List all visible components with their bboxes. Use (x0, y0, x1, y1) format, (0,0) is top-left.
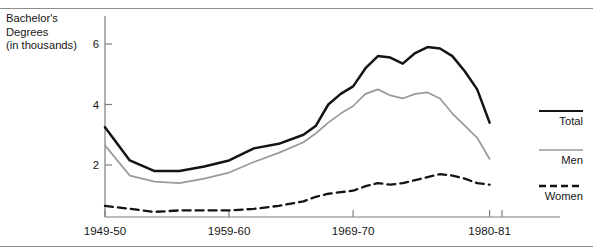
figure: Bachelor's Degrees (in thousands) 246 19… (0, 0, 593, 252)
legend-label-total: Total (559, 115, 583, 127)
chart-series-group (105, 47, 490, 212)
x-axis-tick-label: 1969-70 (332, 224, 375, 237)
y-axis-tick-label: 6 (93, 38, 99, 50)
series-line-women (105, 174, 490, 212)
x-axis-tick-label: 1980-81 (468, 224, 511, 237)
y-axis-tick-label: 2 (93, 159, 99, 171)
line-chart-plot: 246 1949-501959-601969-701980-81 TotalMe… (0, 0, 593, 252)
x-axis: 1949-501959-601969-701980-81 (84, 210, 560, 237)
y-axis: 246 (93, 16, 112, 217)
series-line-total (105, 47, 490, 171)
chart-legend: TotalMenWomen (539, 111, 583, 202)
legend-label-men: Men (561, 154, 583, 166)
x-axis-tick-label: 1949-50 (84, 224, 127, 237)
x-axis-tick-label: 1959-60 (208, 224, 251, 237)
y-axis-tick-label: 4 (93, 99, 99, 111)
legend-label-women: Women (545, 190, 583, 202)
